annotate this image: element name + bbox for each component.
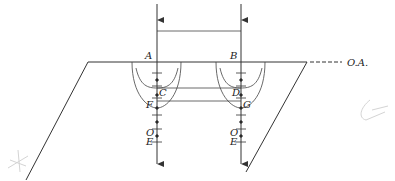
crystal-top-left-edge [26,62,307,180]
label-optic-axis: O.A. [347,57,368,68]
label-E-left: E [145,136,154,147]
optics-diagram: A B C D F G O E O E O.A. [0,0,395,181]
label-D: D [231,87,240,98]
label-E-right: E [229,136,238,147]
label-C: C [159,87,167,98]
label-B: B [229,50,237,61]
faint-scribble-right [361,100,388,120]
label-F: F [145,99,154,110]
crystal-outline [26,62,342,180]
faint-scribble-left [8,150,28,172]
crystal-right-edge [246,62,307,172]
label-A: A [144,50,152,61]
label-G: G [243,99,251,110]
